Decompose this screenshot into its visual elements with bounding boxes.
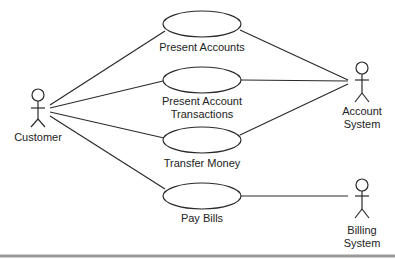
actor-label-line-1: Account [342, 105, 382, 117]
actor-label-line-2: System [344, 118, 381, 130]
stick-figure-icon [355, 62, 369, 102]
association-transfer-money-account-system [240, 84, 348, 135]
stick-figure-icon [355, 179, 369, 218]
association-customer-transfer-money [50, 112, 164, 138]
stick-figure-icon [31, 89, 45, 127]
use-case-diagram: Present Accounts Present Account Transac… [0, 0, 395, 260]
actor-billing-system[interactable]: Billing System [344, 179, 381, 249]
use-case-label-line-2: Transactions [171, 108, 234, 120]
use-case-ellipse [163, 127, 241, 153]
use-case-pay-bills[interactable]: Pay Bills [163, 183, 241, 224]
actor-label: Customer [14, 131, 62, 143]
use-case-ellipse [163, 11, 241, 37]
use-case-label: Pay Bills [181, 212, 224, 224]
associations-systems [240, 30, 348, 196]
association-present-accounts-account-system [240, 30, 348, 80]
association-customer-pay-bills [50, 116, 165, 189]
actor-customer[interactable]: Customer [14, 89, 62, 143]
use-case-label-line-1: Present Account [162, 95, 242, 107]
use-case-ellipse [163, 67, 241, 93]
actor-account-system[interactable]: Account System [342, 62, 382, 130]
associations-customer [50, 31, 165, 189]
use-case-transfer-money[interactable]: Transfer Money [163, 127, 241, 169]
use-case-label: Transfer Money [164, 157, 241, 169]
use-case-ellipse [163, 183, 241, 209]
use-case-present-account-transactions[interactable]: Present Account Transactions [162, 67, 242, 120]
actor-label-line-2: System [344, 237, 381, 249]
use-case-label: Present Accounts [159, 41, 245, 53]
use-case-present-accounts[interactable]: Present Accounts [159, 11, 245, 53]
actor-label-line-1: Billing [347, 224, 376, 236]
association-present-account-transactions-account-system [241, 80, 348, 81]
